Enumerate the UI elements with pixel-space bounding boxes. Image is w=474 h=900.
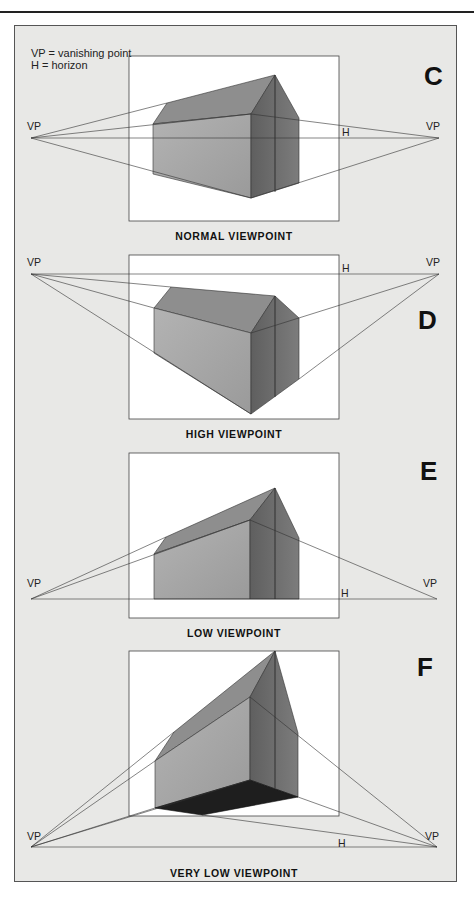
vp-label-left-f: VP [27,830,41,842]
caption-c: NORMAL VIEWPOINT [129,230,339,242]
perspective-diagrams [0,0,474,900]
figure-letter-e: E [420,456,437,487]
caption-e: LOW VIEWPOINT [129,627,339,639]
legend-h: H = horizon [31,59,131,71]
vp-label-right-d: VP [426,256,440,268]
figure-letter-d: D [418,305,437,336]
legend-vp: VP = vanishing point [31,47,131,59]
figure-letter-c: C [424,61,443,92]
figure-e-low-viewpoint [31,453,437,618]
figure-c-normal-viewpoint [31,56,439,221]
figure-d-high-viewpoint [31,255,439,419]
caption-f: VERY LOW VIEWPOINT [129,867,339,879]
vp-label-right-e: VP [423,577,437,589]
caption-d: HIGH VIEWPOINT [129,428,339,440]
horizon-label-d: H [342,262,350,274]
horizon-label-f: H [338,837,346,849]
vp-label-left-c: VP [27,120,41,132]
figure-letter-f: F [417,652,433,683]
vp-label-left-d: VP [27,256,41,268]
legend: VP = vanishing point H = horizon [31,47,131,71]
figure-f-very-low-viewpoint [31,651,437,847]
vp-label-right-f: VP [425,830,439,842]
vp-label-right-c: VP [426,120,440,132]
horizon-label-c: H [342,126,350,138]
horizon-label-e: H [341,587,349,599]
vp-label-left-e: VP [27,577,41,589]
